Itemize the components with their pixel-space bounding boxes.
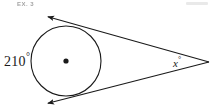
upper-tangent-line	[48, 17, 209, 62]
geometry-figure: EX. 3 210° x°	[0, 0, 214, 110]
arc-measure-value: 210	[4, 54, 26, 69]
arc-degree-symbol: °	[26, 51, 30, 62]
arc-measure-label: 210°	[4, 52, 30, 69]
angle-measure-label: x°	[173, 56, 181, 69]
tangent-lines-group	[48, 17, 209, 104]
circle-center-point	[63, 58, 68, 63]
circle-tangent-diagram	[0, 0, 214, 110]
lower-tangent-line	[48, 62, 209, 103]
angle-degree-symbol: °	[178, 55, 181, 64]
